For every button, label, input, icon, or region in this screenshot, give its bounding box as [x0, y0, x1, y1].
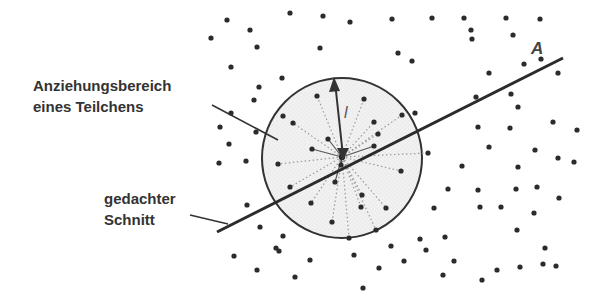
attraction-label-line2: eines Teilchens: [33, 97, 171, 116]
particle-dot: [275, 161, 280, 166]
particle-dot: [507, 125, 512, 130]
particle-dot: [325, 136, 330, 141]
diagram-canvas: [0, 0, 599, 296]
cut-label-line2: Schnitt: [104, 210, 176, 229]
particle-dot: [537, 16, 542, 21]
particle-dot: [451, 258, 456, 263]
particle-dot: [208, 35, 213, 40]
particle-dot: [442, 234, 447, 239]
particle-dot: [375, 131, 380, 136]
particle-dot: [309, 146, 314, 151]
particle-dot: [320, 13, 325, 18]
particle-dot: [251, 97, 256, 102]
particle-dot: [412, 110, 417, 115]
particle-dot: [373, 227, 378, 232]
particle-dot: [290, 120, 295, 125]
radius-label-l: l: [344, 104, 348, 122]
attraction-label-line1: Anziehungsbereich: [33, 76, 171, 95]
particle-dot: [308, 200, 313, 205]
particle-dot: [280, 233, 285, 238]
particle-dot: [556, 195, 561, 200]
particle-dot: [359, 192, 364, 197]
particle-dot: [503, 15, 508, 20]
particle-dot: [553, 263, 558, 268]
particle-dot: [508, 91, 513, 96]
particle-dot: [338, 162, 343, 167]
particle-dot: [383, 205, 388, 210]
particle-dot: [486, 144, 491, 149]
particle-dot: [401, 258, 406, 263]
particle-dot: [376, 265, 381, 270]
particle-dot: [531, 210, 536, 215]
particle-dot: [473, 94, 478, 99]
particle-dot: [371, 119, 376, 124]
particle-dot: [307, 257, 312, 262]
particle-dot: [429, 15, 434, 20]
particle-dot: [228, 64, 233, 69]
cut-label-leader: [190, 215, 228, 224]
particle-dot: [346, 235, 351, 240]
particle-dot: [257, 224, 262, 229]
particle-dot: [244, 202, 249, 207]
particle-dot: [515, 104, 520, 109]
particle-dot: [287, 184, 292, 189]
particle-dot: [486, 70, 491, 75]
particle-dot: [534, 184, 539, 189]
particle-dot: [226, 141, 231, 146]
particle-dot: [514, 227, 519, 232]
particle-dot: [555, 155, 560, 160]
particle-dot: [425, 150, 430, 155]
particle-dot: [254, 44, 259, 49]
particle-dot: [445, 186, 450, 191]
particle-dot: [292, 274, 297, 279]
particle-dot: [469, 36, 474, 41]
particle-dot: [517, 264, 522, 269]
particle-dot: [388, 243, 393, 248]
particle-dot: [254, 267, 259, 272]
particle-dot: [347, 19, 352, 24]
particle-dot: [494, 267, 499, 272]
particle-dot: [360, 285, 365, 290]
particle-dot: [468, 27, 473, 32]
particle-dot: [459, 163, 464, 168]
particle-dot: [521, 61, 526, 66]
particle-dot: [555, 70, 560, 75]
particle-dot: [542, 245, 547, 250]
particle-dot: [279, 75, 284, 80]
particle-dot: [332, 179, 337, 184]
particle-dot: [351, 252, 356, 257]
particle-dot: [477, 204, 482, 209]
particle-dot: [243, 158, 248, 163]
particle-dot: [361, 96, 366, 101]
particle-dot: [571, 159, 576, 164]
particle-dot: [513, 186, 518, 191]
particle-dot: [231, 253, 236, 258]
attraction-region-label: Anziehungsbereich eines Teilchens: [33, 76, 171, 116]
particle-dot: [389, 16, 394, 21]
particle-dot: [399, 112, 404, 117]
particle-dot: [461, 15, 466, 20]
particle-dot: [423, 247, 428, 252]
particle-dot: [217, 124, 222, 129]
particle-dot: [398, 168, 403, 173]
particle-dot: [510, 32, 515, 37]
particle-dot: [314, 93, 319, 98]
particle-dot: [479, 277, 484, 282]
particle-dot: [409, 58, 414, 63]
physics-diagram: Anziehungsbereich eines Teilchens gedach…: [0, 0, 599, 296]
particle-dot: [417, 236, 422, 241]
particle-dot: [550, 119, 555, 124]
particle-dot: [431, 205, 436, 210]
particle-dot: [515, 164, 520, 169]
particle-dot: [256, 84, 261, 89]
particle-dot: [273, 245, 278, 250]
particle-dot: [395, 50, 400, 55]
particle-dot: [540, 261, 545, 266]
particle-dot: [216, 160, 221, 165]
particle-dot: [475, 124, 480, 129]
particle-dot: [287, 10, 292, 15]
cut-label: gedachter Schnitt: [104, 189, 176, 229]
particle-dot: [224, 17, 229, 22]
plane-label-a: A: [531, 39, 543, 59]
particle-dot: [532, 147, 537, 152]
